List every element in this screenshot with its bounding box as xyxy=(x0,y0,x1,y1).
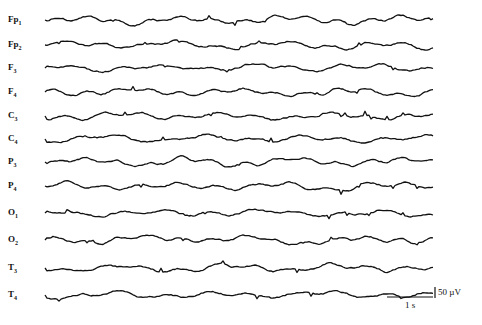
trace-p3 xyxy=(45,156,433,167)
trace-fp1 xyxy=(45,15,433,26)
time-scale-label: 1 s xyxy=(405,300,415,310)
channel-label-o1: O1 xyxy=(8,207,18,221)
trace-f4 xyxy=(45,87,433,97)
channel-label-t4: T4 xyxy=(8,289,17,303)
trace-t4 xyxy=(45,291,433,302)
amplitude-scale-label: 50 µV xyxy=(438,287,461,297)
channel-label-fp1: Fp1 xyxy=(8,14,22,28)
channel-label-c3: C3 xyxy=(8,110,18,124)
trace-p4 xyxy=(45,181,433,195)
trace-c3 xyxy=(45,111,433,120)
trace-o1 xyxy=(45,209,433,219)
eeg-traces xyxy=(45,15,433,301)
trace-o2 xyxy=(45,235,433,245)
trace-c4 xyxy=(45,134,433,143)
trace-f3 xyxy=(45,64,433,73)
channel-label-f3: F3 xyxy=(8,62,17,76)
channel-label-p4: P4 xyxy=(8,180,17,194)
channel-label-f4: F4 xyxy=(8,86,17,100)
channel-label-o2: O2 xyxy=(8,234,18,248)
trace-fp2 xyxy=(45,40,433,50)
channel-label-c4: C4 xyxy=(8,133,18,147)
channel-label-fp2: Fp2 xyxy=(8,39,22,53)
eeg-chart xyxy=(0,0,482,325)
channel-label-p3: P3 xyxy=(8,156,17,170)
trace-t3 xyxy=(45,261,433,273)
channel-label-t3: T3 xyxy=(8,262,17,276)
